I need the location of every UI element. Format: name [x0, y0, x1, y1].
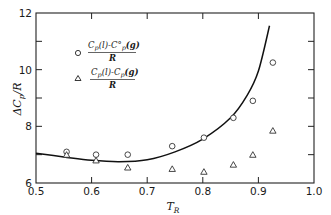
circle-marker-icon [250, 98, 256, 104]
circle-marker-icon [231, 115, 237, 121]
legend-item-circle: Cp(l)-C°p(g) R [75, 40, 139, 63]
legend-numerator: Cp(l)-Cp(g) [91, 67, 139, 79]
y-tick-label: 10 [19, 64, 32, 76]
plot-frame [36, 13, 314, 183]
x-axis-label: TR [167, 200, 180, 215]
legend-denominator: R [108, 53, 116, 63]
circle-marker-icon [201, 135, 207, 141]
y-tick-label: 12 [19, 7, 32, 19]
x-tick-label: 0.6 [83, 185, 100, 197]
triangle-marker-icon [169, 166, 175, 172]
circle-marker-icon [270, 60, 276, 66]
triangle-marker-icon [125, 164, 131, 170]
y-axis-label: ΔCp/R [11, 82, 26, 116]
x-tick-label: 0.8 [194, 185, 211, 197]
y-tick-label: 6 [25, 177, 32, 189]
legend-denominator: R [108, 80, 116, 90]
triangle-marker-icon [75, 76, 81, 81]
y-tick-label: 8 [25, 120, 32, 132]
triangle-marker-icon [250, 152, 256, 158]
x-tick-label: 0.7 [139, 185, 156, 197]
circle-marker-icon [75, 50, 80, 55]
circle-marker-icon [125, 152, 131, 158]
x-tick-label: 1.0 [306, 185, 323, 197]
legend: Cp(l)-C°p(g) R Cp(l)-Cp(g) R [75, 40, 140, 90]
fit-curve [36, 26, 270, 162]
chart: 0.50.60.70.80.91.0681012 Cp(l)-C°p(g) R … [0, 0, 331, 215]
triangle-marker-icon [230, 162, 236, 168]
triangle-marker-icon [270, 128, 276, 134]
legend-item-triangle: Cp(l)-Cp(g) R [75, 67, 139, 90]
legend-numerator: Cp(l)-C°p(g) [88, 40, 140, 52]
x-tick-label: 0.9 [250, 185, 267, 197]
triangle-marker-icon [201, 169, 207, 175]
axis-ticks [36, 13, 314, 183]
circle-marker-icon [169, 143, 175, 149]
